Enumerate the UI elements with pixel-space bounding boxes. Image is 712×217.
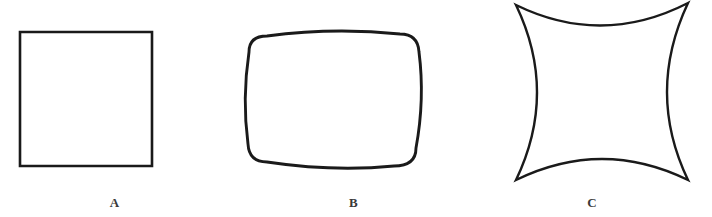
figure-a: A <box>0 0 237 217</box>
square-outline-path <box>20 32 152 166</box>
barrel-square-outline-path <box>245 31 421 168</box>
figure-label-a: A <box>0 196 233 209</box>
square-shape-a <box>0 0 237 217</box>
figure-label-c: C <box>473 196 711 209</box>
figure-b: B <box>237 0 474 217</box>
barrel-square-shape-b <box>237 0 474 217</box>
astroid-square-outline-path <box>516 3 688 180</box>
astroid-square-shape-c <box>474 0 712 217</box>
figure-c: C <box>474 0 712 217</box>
figure-panel: A B C <box>0 0 712 217</box>
figure-label-b: B <box>235 196 472 209</box>
